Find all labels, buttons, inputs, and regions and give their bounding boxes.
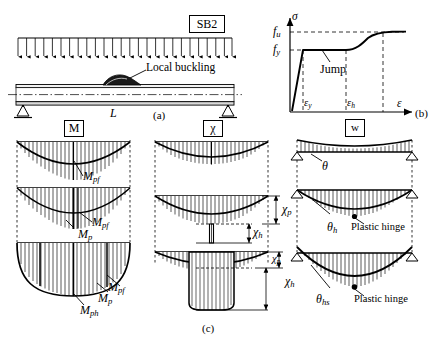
label-mph-row3: Mph: [80, 304, 99, 318]
fu-sub: u: [276, 29, 280, 39]
local-buckling-label: Local buckling: [146, 62, 215, 74]
moment-diagram-row3: [17, 243, 130, 305]
deflection-diagram-row2: [291, 190, 418, 224]
epsilon-y-label: εy: [304, 98, 312, 110]
beam-load-diagram: [8, 38, 242, 118]
mpf-row1-base: M: [83, 169, 93, 183]
mph-row3-base: M: [80, 303, 90, 317]
figure-root: SB2 Local buckling L (a) σ ε fu fy εy εh…: [0, 0, 438, 347]
label-mpf-row2: Mpf: [92, 216, 109, 230]
local-buckling-bulge: [103, 70, 146, 85]
caption-c: (c): [202, 323, 214, 334]
label-chi-h-row3: χh: [285, 275, 295, 289]
chih-row2-sub: h: [258, 230, 262, 240]
mp-row3-base: M: [98, 291, 108, 305]
support-roller-right: [219, 105, 237, 118]
label-chi-p-row3: χp: [272, 254, 280, 266]
curvature-diagram-row2: [155, 196, 268, 243]
caption-b: (b): [415, 108, 428, 119]
column-header-moment: M: [64, 120, 84, 137]
moment-diagram-row1: [17, 142, 130, 180]
epsilon-h-label: εh: [347, 98, 355, 110]
mph-row3-sub: ph: [90, 308, 99, 318]
plastic-hinge-label-row2: Plastic hinge: [351, 222, 405, 233]
label-chi-h-row2: χh: [253, 226, 263, 240]
jump-annotation: Jump: [320, 63, 346, 75]
column-header-curvature: χ: [203, 120, 223, 137]
support-pin-left: [14, 105, 32, 118]
specimen-label: SB2: [189, 15, 225, 33]
mpf-row1-sub: pf: [93, 174, 100, 184]
mpf-row3-sub: pf: [118, 285, 125, 295]
curvature-diagram-row1: [155, 142, 268, 165]
thetah-row2-sub: h: [333, 225, 337, 235]
label-mpf-row1: Mpf: [83, 170, 100, 184]
eps-h-sub: h: [351, 101, 355, 110]
theta-row1-base: θ: [322, 159, 328, 173]
chip-row3-sub: p: [277, 257, 281, 266]
span-length-label: L: [110, 107, 117, 119]
chip-row2-sub: p: [287, 207, 291, 217]
mp-row2-base: M: [78, 227, 88, 241]
eps-y-sub: y: [308, 101, 311, 110]
moment-diagram-row2: [17, 188, 130, 229]
fu-label: fu: [273, 25, 281, 39]
mpf-row2-sub: pf: [102, 220, 109, 230]
plastic-hinge-label-row3: Plastic hinge: [354, 294, 408, 305]
mp-row3-sub: p: [108, 296, 112, 306]
label-theta-h-row2: θh: [327, 221, 337, 235]
label-mp-row3: Mp: [98, 292, 112, 306]
thetahs-row3-sub: hs: [322, 297, 330, 307]
caption-a: (a): [153, 110, 165, 121]
epsilon-axis-label: ε: [397, 98, 402, 110]
fy-label: fy: [273, 43, 280, 57]
label-mp-row2: Mp: [78, 228, 92, 242]
beam-elevation: [8, 85, 242, 106]
fy-sub: y: [276, 47, 280, 57]
label-chi-p-row2: χp: [282, 203, 292, 217]
deflection-diagram-row3: [291, 247, 418, 296]
deflection-diagram-row1: [291, 140, 418, 161]
jump-leader: [322, 50, 330, 62]
chih-row3-sub: h: [290, 279, 294, 289]
mpf-row2-base: M: [92, 215, 102, 229]
sigma-axis-label: σ: [292, 11, 298, 23]
curvature-diagram-row3: [155, 252, 268, 310]
label-theta-row1: θ: [322, 160, 328, 174]
mp-row2-sub: p: [88, 232, 92, 242]
label-theta-hs-row3: θhs: [316, 293, 330, 307]
column-header-deflection: w: [345, 119, 365, 137]
